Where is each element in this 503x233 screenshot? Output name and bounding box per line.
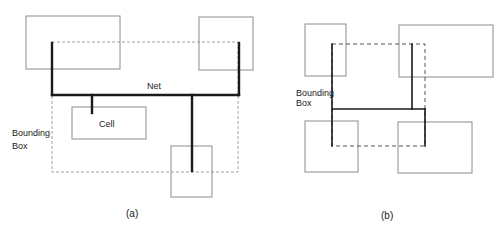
cell-top-left bbox=[305, 24, 346, 76]
cell-bottom-right bbox=[398, 122, 472, 173]
panel-b-cells bbox=[305, 24, 493, 173]
net-bounding-box-diagram: Net Cell Bounding Box (a) Bounding Box (… bbox=[0, 0, 503, 233]
cell-top-right bbox=[199, 17, 253, 70]
cell-top-right bbox=[399, 25, 493, 77]
caption-a: (a) bbox=[126, 208, 138, 219]
bounding-box-label-line2: Box bbox=[296, 98, 312, 108]
cell-label: Cell bbox=[99, 119, 115, 129]
caption-b: (b) bbox=[381, 210, 393, 221]
bounding-box-label-line1: Bounding bbox=[296, 88, 334, 98]
panel-a: Net Cell Bounding Box (a) bbox=[12, 16, 253, 219]
cell-top-left bbox=[26, 16, 120, 69]
bounding-box-label-line1: Bounding bbox=[12, 128, 50, 138]
bounding-box-label-line2: Box bbox=[12, 141, 28, 151]
panel-a-cells bbox=[26, 16, 253, 197]
panel-b: Bounding Box (b) bbox=[296, 24, 493, 221]
net-label: Net bbox=[147, 81, 162, 91]
